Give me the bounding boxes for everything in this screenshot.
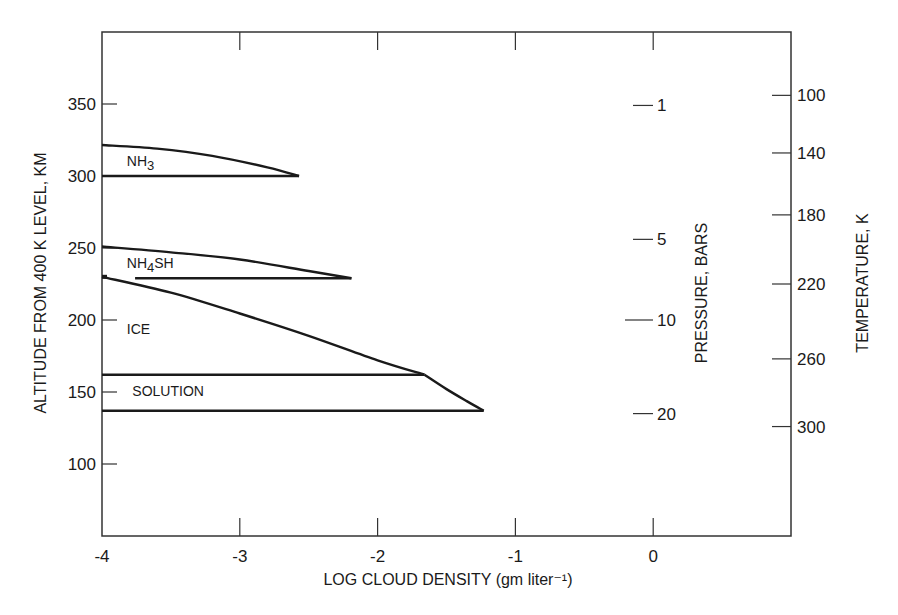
y-axis-label: ALTITUDE FROM 400 K LEVEL, KM [32,152,49,413]
y-tick-label: 150 [68,383,96,402]
pressure-tick-label: 10 [657,311,676,330]
pressure-tick-label: 5 [657,230,666,249]
y-tick-label: 250 [68,239,96,258]
plot-frame [102,32,791,536]
pressure-axis-label: PRESSURE, BARS [693,223,710,363]
temperature-tick-label: 260 [797,350,825,369]
temperature-axis-ticks: 100140180220260300 [772,86,825,436]
y-tick-label: 300 [68,167,96,186]
temperature-tick-label: 300 [797,418,825,437]
pressure-axis-ticks: 151020 [625,96,676,423]
pressure-tick-label: 1 [657,96,666,115]
cloud-layer-ice: ICE [102,277,424,375]
temperature-tick-label: 140 [797,144,825,163]
cloud-layer-nh3: NH3 [102,145,299,176]
cloud-layer-nh4sh: NH4SH [102,247,351,279]
pressure-tick-label: 20 [657,405,676,424]
x-tick-label: -1 [508,547,523,566]
cloud-layers: NH3NH4SHICESOLUTION [102,145,484,411]
temperature-tick-label: 100 [797,86,825,105]
cloud-layer-solution: SOLUTION [102,375,484,411]
temperature-tick-label: 220 [797,275,825,294]
y-tick-label: 350 [68,95,96,114]
y-tick-label: 200 [68,311,96,330]
x-axis-label: LOG CLOUD DENSITY (gm liter⁻¹) [323,571,572,588]
axis-marker [102,275,107,279]
layer-label: NH3 [127,153,154,173]
cloud-density-chart: -4-3-2-10 100150200250300350 151020 1001… [0,0,898,615]
layer-top-curve [424,375,483,411]
x-tick-label: -4 [94,547,109,566]
x-axis-ticks: -4-3-2-10 [94,32,657,566]
temperature-axis-label: TEMPERATURE, K [854,213,871,353]
layer-label: NH4SH [127,255,174,275]
x-tick-label: 0 [648,547,657,566]
y-tick-label: 100 [68,455,96,474]
layer-top-curve [102,277,424,375]
x-tick-label: -2 [370,547,385,566]
layer-label: SOLUTION [132,383,204,399]
x-tick-label: -3 [232,547,247,566]
layer-label: ICE [127,321,150,337]
y-axis-ticks: 100150200250300350 [68,95,117,474]
temperature-tick-label: 180 [797,206,825,225]
